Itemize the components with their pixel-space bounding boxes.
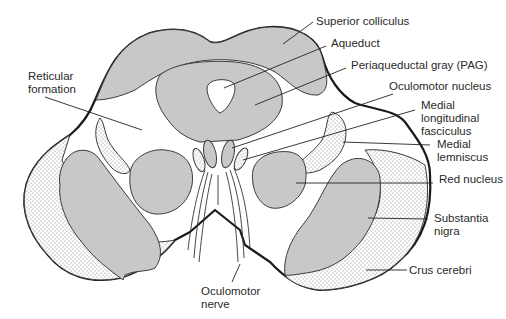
- label-oculomotor-nucleus: Oculomotor nucleus: [389, 80, 492, 92]
- label-reticular-formation-1: Reticular: [28, 70, 74, 82]
- label-reticular-formation-2: formation: [28, 83, 76, 95]
- label-oculomotor-nerve-2: nerve: [201, 298, 230, 310]
- label-medial-lemniscus-1: Medial: [437, 138, 471, 150]
- label-mlf-3: fasciculus: [421, 125, 472, 137]
- label-substantia-nigra-2: nigra: [434, 225, 460, 237]
- label-mlf-2: longitudinal: [421, 112, 479, 124]
- midbrain-diagram: Superior colliculus Aqueduct Periaqueduc…: [0, 0, 506, 319]
- label-superior-colliculus: Superior colliculus: [316, 15, 410, 27]
- label-oculomotor-nerve-1: Oculomotor: [201, 285, 261, 297]
- leader-oculomotor-nerve: [232, 264, 240, 282]
- label-substantia-nigra-1: Substantia: [434, 212, 489, 224]
- label-red-nucleus: Red nucleus: [439, 173, 503, 185]
- label-pag: Periaqueductal gray (PAG): [351, 59, 488, 71]
- label-aqueduct: Aqueduct: [331, 37, 380, 49]
- label-mlf-1: Medial: [421, 99, 455, 111]
- label-medial-lemniscus-2: lemniscus: [437, 151, 488, 163]
- label-crus-cerebri: Crus cerebri: [409, 264, 472, 276]
